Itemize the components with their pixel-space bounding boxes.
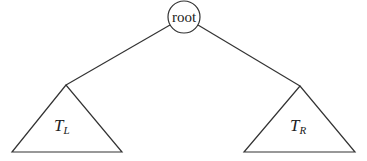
left-subtree-label: TL xyxy=(54,116,70,136)
edge-root-to-left xyxy=(66,25,170,85)
left-subtree-label-subscript: L xyxy=(62,124,69,136)
right-subtree-triangle xyxy=(244,86,355,152)
root-label: root xyxy=(172,9,197,25)
right-subtree-label: TR xyxy=(290,116,306,136)
left-subtree-triangle xyxy=(12,85,122,152)
tree-diagram: root TL TR xyxy=(0,0,367,161)
edge-root-to-right xyxy=(198,25,300,86)
right-subtree-label-subscript: R xyxy=(298,124,306,136)
